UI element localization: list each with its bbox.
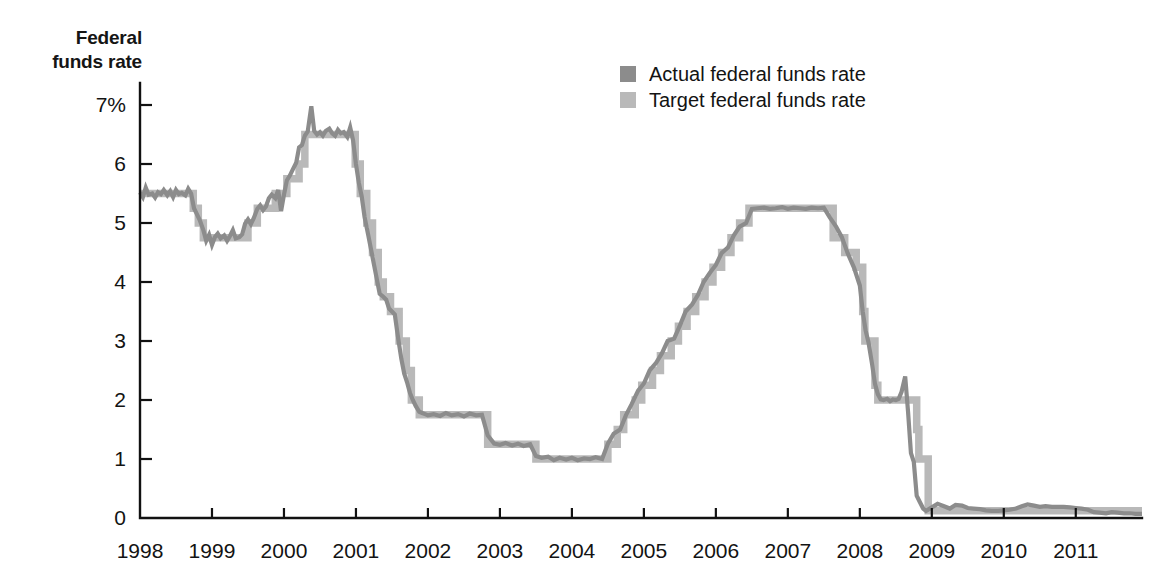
y-tick-label: 2 bbox=[30, 389, 126, 410]
plot-area bbox=[0, 0, 1164, 581]
x-tick-label: 2011 bbox=[1030, 540, 1122, 561]
y-tick-label: 3 bbox=[30, 330, 126, 351]
series-actual bbox=[140, 106, 1142, 514]
series-target bbox=[140, 135, 1142, 511]
y-tick-label: 0 bbox=[30, 507, 126, 528]
y-tick-label: 4 bbox=[30, 271, 126, 292]
axis-lines bbox=[140, 83, 1142, 518]
y-tick-label: 5 bbox=[30, 212, 126, 233]
federal-funds-rate-chart: Federal funds rate Actual federal funds … bbox=[0, 0, 1164, 581]
y-tick-label: 1 bbox=[30, 448, 126, 469]
y-tick-label: 7% bbox=[30, 94, 126, 115]
y-tick-label: 6 bbox=[30, 153, 126, 174]
